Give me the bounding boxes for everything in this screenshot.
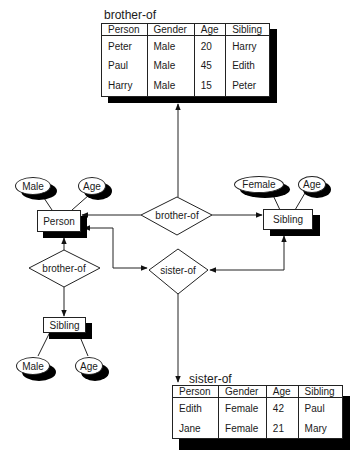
attribute-person-gender-label: Male (15, 177, 51, 195)
column-header: Gender (147, 24, 194, 36)
entity-sibling-bottom: Sibling (43, 317, 86, 333)
table-row: PeterMale20Harry (102, 36, 270, 57)
table-cell: 42 (266, 398, 298, 419)
table-cell: Paul (102, 56, 148, 76)
table-cell: Male (147, 76, 194, 97)
attr-line-person-age (72, 195, 89, 210)
table-row: EdithFemale42Paul (173, 398, 343, 419)
table-cell: Peter (226, 76, 270, 97)
attribute-person-gender: Male (15, 177, 51, 195)
attribute-person-age-label: Age (78, 177, 106, 195)
attribute-sibling-right-age: Age (298, 176, 326, 193)
table-cell: Harry (102, 76, 148, 97)
attr-line-sibling-age (295, 193, 305, 210)
table-cell: 20 (194, 36, 225, 57)
entity-sibling-right-label: Sibling (263, 209, 313, 230)
entity-person-label: Person (37, 210, 81, 232)
table-cell: Male (147, 36, 194, 57)
table-cell: Edith (173, 398, 219, 419)
attribute-sibling-right-gender: Female (234, 176, 284, 193)
table-cell: Female (219, 418, 267, 439)
relationship-label-sister-of: sister-of (160, 265, 196, 276)
relationship-label-brother-of: brother-of (155, 210, 198, 221)
table-brother-of: PersonGenderAgeSibling PeterMale20HarryP… (101, 23, 270, 97)
relationship-label-brother-of-left: brother-of (42, 263, 85, 274)
table-cell: Harry (226, 36, 270, 57)
table-sister-of: PersonGenderAgeSibling EdithFemale42Paul… (172, 385, 343, 439)
link-sister-of-sibling (210, 236, 284, 270)
table-cell: Female (219, 398, 267, 419)
attribute-sibling-bottom-age-label: Age (75, 357, 103, 375)
attribute-person-age: Age (78, 177, 106, 195)
table-cell: 21 (266, 418, 298, 439)
attribute-sibling-right-age-label: Age (298, 176, 326, 193)
column-header: Person (173, 386, 219, 398)
attribute-sibling-right-gender-label: Female (234, 176, 284, 193)
table-cell: Paul (298, 398, 342, 419)
attribute-sibling-bottom-gender: Male (16, 357, 50, 375)
column-header: Age (194, 24, 225, 36)
table-cell: 15 (194, 76, 225, 97)
table-row: JaneFemale21Mary (173, 418, 343, 439)
table-cell: Edith (226, 56, 270, 76)
table-cell: Mary (298, 418, 342, 439)
table-title-brother-of: brother-of (104, 8, 156, 22)
relation-table-brother-of: PersonGenderAgeSibling PeterMale20HarryP… (101, 23, 270, 97)
table-row: HarryMale15Peter (102, 76, 270, 97)
relation-table-sister-of: PersonGenderAgeSibling EdithFemale42Paul… (172, 385, 343, 439)
entity-person: Person (37, 210, 81, 232)
entity-sibling-bottom-label: Sibling (43, 317, 86, 333)
link-person-sister-of (84, 228, 147, 268)
column-header: Age (266, 386, 298, 398)
column-header: Gender (219, 386, 267, 398)
entity-sibling-right: Sibling (263, 209, 313, 230)
attribute-sibling-bottom-gender-label: Male (16, 357, 50, 375)
attribute-sibling-bottom-age: Age (75, 357, 103, 375)
table-cell: 45 (194, 56, 225, 76)
table-row: PaulMale45Edith (102, 56, 270, 76)
column-header: Person (102, 24, 148, 36)
table-title-sister-of: sister-of (189, 372, 232, 386)
table-cell: Jane (173, 418, 219, 439)
column-header: Sibling (226, 24, 270, 36)
column-header: Sibling (298, 386, 342, 398)
table-cell: Peter (102, 36, 148, 57)
table-cell: Male (147, 56, 194, 76)
